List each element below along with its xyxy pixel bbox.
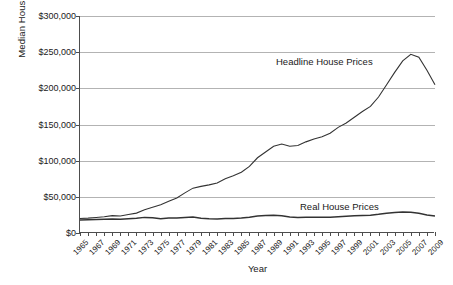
x-tick-label: 1977 (168, 238, 187, 257)
x-tick-label: 1985 (233, 238, 252, 257)
x-tick-label: 2007 (410, 238, 429, 257)
series-label-headline-house-prices: Headline House Prices (276, 56, 373, 67)
x-tick-mark (435, 232, 436, 236)
x-tick-label: 1969 (104, 238, 123, 257)
x-tick-label: 1967 (88, 238, 107, 257)
x-tick-label: 1989 (265, 238, 284, 257)
y-tick-label: $150,000 (38, 120, 76, 130)
y-tick-label: $100,000 (38, 156, 76, 166)
y-axis-title: Median House Price (16, 0, 27, 94)
x-tick-label: 2003 (378, 238, 397, 257)
x-tick-label: 1979 (184, 238, 203, 257)
x-axis-title: Year (80, 263, 435, 274)
x-tick-label: 1999 (346, 238, 365, 257)
y-tick-label: $250,000 (38, 47, 76, 57)
series-line-headline-house-prices (80, 54, 435, 218)
series-label-real-house-prices: Real House Prices (300, 201, 379, 212)
y-tick-label: $200,000 (38, 83, 76, 93)
x-tick-label: 1997 (330, 238, 349, 257)
x-tick-label: 1993 (297, 238, 316, 257)
x-tick-label: 2005 (394, 238, 413, 257)
x-tick-label: 1981 (200, 238, 219, 257)
y-tick-label: $300,000 (38, 11, 76, 21)
x-tick-label: 1983 (217, 238, 236, 257)
x-tick-label: 1995 (313, 238, 332, 257)
x-tick-label: 2009 (426, 238, 445, 257)
x-tick-label: 1987 (249, 238, 268, 257)
x-tick-label: 1991 (281, 238, 300, 257)
x-tick-label: 1973 (136, 238, 155, 257)
house-price-chart: $0$50,000$100,000$150,000$200,000$250,00… (0, 0, 453, 285)
y-tick-label: $0 (66, 228, 76, 238)
x-tick-label: 1965 (71, 238, 90, 257)
x-tick-label: 2001 (362, 238, 381, 257)
series-layer (80, 16, 435, 233)
y-tick-label: $50,000 (43, 192, 76, 202)
plot-area: $0$50,000$100,000$150,000$200,000$250,00… (79, 16, 434, 233)
x-tick-label: 1971 (120, 238, 139, 257)
x-tick-label: 1975 (152, 238, 171, 257)
